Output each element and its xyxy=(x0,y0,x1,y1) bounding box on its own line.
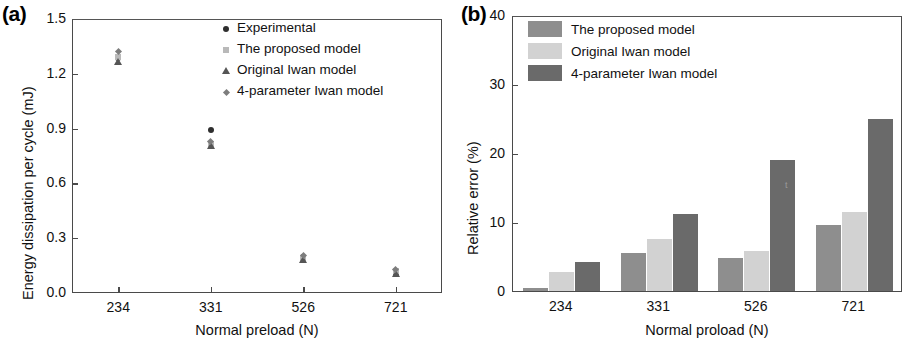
panel-b-y-tick-label: 0 xyxy=(461,283,505,299)
panel-b-legend-label: 4-parameter Iwan model xyxy=(571,66,717,81)
panel-b-legend-label: Original Iwan model xyxy=(571,44,690,59)
panel-a-x-tick-label: 331 xyxy=(181,299,241,315)
panel-a-x-tick-mark xyxy=(211,287,212,293)
panel-b-legend-item: The proposed model xyxy=(528,18,717,40)
panel-b: (b) Relative error (%) 010203040 2343315… xyxy=(455,0,909,346)
panel-a-y-axis-title: Energy dissipation per cycle (mJ) xyxy=(20,86,36,300)
panel-b-y-tick-label: 20 xyxy=(461,145,505,161)
panel-b-bar xyxy=(549,272,574,291)
panel-a-data-point xyxy=(392,266,400,274)
scan-artifact: t xyxy=(785,180,788,190)
panel-a-y-tick-label: 0.6 xyxy=(18,174,66,190)
panel-a-data-point xyxy=(299,251,307,259)
panel-a-y-tick-mark xyxy=(72,238,78,239)
panel-b-bar xyxy=(842,212,867,291)
panel-a-x-tick-mark xyxy=(303,287,304,293)
panel-a-legend-item: Original Iwan model xyxy=(215,58,383,79)
panel-b-y-tick-label: 30 xyxy=(461,76,505,92)
panel-b-legend-swatch xyxy=(528,65,562,81)
marker-diamond-icon xyxy=(115,48,122,55)
panel-a: (a) Energy dissipation per cycle (mJ) 0.… xyxy=(0,0,455,346)
marker-diamond-icon xyxy=(300,251,307,258)
panel-b-bar xyxy=(816,225,841,291)
panel-a-data-point xyxy=(207,137,215,145)
panel-b-x-tick-label: 234 xyxy=(531,298,591,314)
panel-a-y-tick-mark xyxy=(72,183,78,184)
panel-a-legend-item: Experimental xyxy=(215,16,383,37)
panel-b-x-tick-label: 526 xyxy=(726,298,786,314)
panel-b-x-tick-label: 721 xyxy=(823,298,883,314)
marker-triangle-icon xyxy=(114,58,122,65)
panel-a-legend-marker xyxy=(215,80,237,101)
panel-a-y-tick-label: 0.9 xyxy=(18,120,66,136)
panel-a-y-tick-label: 1.5 xyxy=(18,10,66,26)
panel-a-y-tick-mark xyxy=(72,74,78,75)
panel-a-legend-label: 4-parameter Iwan model xyxy=(237,80,383,101)
panel-a-legend-label: Experimental xyxy=(237,17,316,38)
panel-b-legend-label: The proposed model xyxy=(571,22,695,37)
figure-container: (a) Energy dissipation per cycle (mJ) 0.… xyxy=(0,0,909,346)
panel-a-legend-label: The proposed model xyxy=(237,38,361,59)
panel-a-legend-marker xyxy=(215,59,237,80)
panel-a-x-tick-label: 721 xyxy=(366,299,426,315)
panel-a-legend-marker xyxy=(215,38,237,59)
marker-diamond-icon xyxy=(222,89,229,96)
panel-b-y-tick-label: 10 xyxy=(461,214,505,230)
panel-a-data-point xyxy=(114,58,122,66)
panel-a-legend-item: 4-parameter Iwan model xyxy=(215,79,383,100)
marker-diamond-icon xyxy=(207,137,214,144)
panel-a-y-tick-mark xyxy=(72,129,78,130)
marker-diamond-icon xyxy=(392,266,399,273)
panel-a-x-axis-title: Normal preload (N) xyxy=(72,322,442,338)
marker-circle-icon xyxy=(208,127,214,133)
panel-b-bar xyxy=(523,288,548,291)
panel-b-bar xyxy=(744,251,769,291)
panel-a-x-tick-label: 234 xyxy=(88,299,148,315)
marker-triangle-icon xyxy=(222,67,230,74)
panel-b-bar xyxy=(673,214,698,291)
panel-a-y-tick-label: 0.3 xyxy=(18,229,66,245)
panel-b-legend: The proposed modelOriginal Iwan model4-p… xyxy=(528,18,717,84)
panel-b-y-tick-label: 40 xyxy=(461,7,505,23)
panel-b-x-axis-title: Normal proload (N) xyxy=(512,322,902,338)
panel-a-y-tick-label: 1.2 xyxy=(18,65,66,81)
panel-b-bar xyxy=(647,239,672,291)
panel-a-data-point xyxy=(114,48,122,56)
marker-square-icon xyxy=(223,47,229,53)
panel-b-bar xyxy=(621,253,646,291)
panel-a-y-tick-label: 0.0 xyxy=(18,284,66,300)
panel-a-legend-item: The proposed model xyxy=(215,37,383,58)
panel-b-bar xyxy=(868,119,893,292)
panel-b-legend-item: 4-parameter Iwan model xyxy=(528,62,717,84)
panel-b-bar xyxy=(770,160,795,291)
panel-b-legend-item: Original Iwan model xyxy=(528,40,717,62)
panel-a-x-tick-mark xyxy=(118,287,119,293)
panel-a-x-tick-mark xyxy=(396,287,397,293)
panel-b-bar xyxy=(718,258,743,291)
panel-a-legend-marker xyxy=(215,17,237,38)
panel-b-bar xyxy=(575,262,600,291)
panel-a-legend-label: Original Iwan model xyxy=(237,59,356,80)
panel-b-legend-swatch xyxy=(528,21,562,37)
panel-b-legend-swatch xyxy=(528,43,562,59)
marker-circle-icon xyxy=(223,26,229,32)
panel-a-x-tick-label: 526 xyxy=(273,299,333,315)
panel-a-legend: ExperimentalThe proposed modelOriginal I… xyxy=(215,16,383,100)
panel-b-x-tick-label: 331 xyxy=(628,298,688,314)
panel-a-data-point xyxy=(207,126,215,134)
